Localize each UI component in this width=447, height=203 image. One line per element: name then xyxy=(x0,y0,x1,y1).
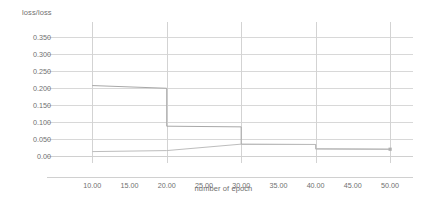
x-axis-title: number of epoch xyxy=(0,184,447,193)
y-tick-label: 0.300 xyxy=(33,50,51,59)
series-line xyxy=(92,144,390,151)
y-tick-label: 0.00 xyxy=(37,152,51,161)
series-lines xyxy=(55,29,405,156)
x-axis-baseline xyxy=(47,156,413,157)
y-tick-label: 0.250 xyxy=(33,67,51,76)
x-axis-tick-line xyxy=(47,177,413,178)
y-tick-label: 0.050 xyxy=(33,135,51,144)
y-axis-title: loss/loss xyxy=(22,8,52,17)
series-line xyxy=(92,86,390,150)
series-end-marker xyxy=(389,148,392,151)
y-tick-label: 0.100 xyxy=(33,118,51,127)
plot-area: 0.3500.3000.2500.2000.1500.1000.0500.00 … xyxy=(55,29,405,156)
y-tick-label: 0.150 xyxy=(33,101,51,110)
y-tick-label: 0.350 xyxy=(33,33,51,42)
y-tick-label: 0.200 xyxy=(33,84,51,93)
chart-container: loss/loss 0.3500.3000.2500.2000.1500.100… xyxy=(0,0,447,203)
